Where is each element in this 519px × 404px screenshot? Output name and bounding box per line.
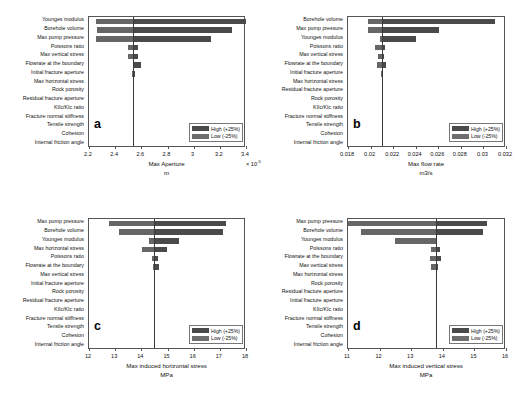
category-label: Borehole volume <box>260 228 343 233</box>
x-tick <box>443 348 444 351</box>
category-label: Max vertical stress <box>260 52 343 57</box>
x-tick <box>89 348 90 351</box>
legend-label-high: High (+25%) <box>211 126 240 132</box>
x-tick-label: 0.02 <box>364 151 375 157</box>
category-label: Rock porosity <box>260 281 343 286</box>
legend-swatch-low <box>192 336 209 341</box>
x-tick <box>438 146 439 149</box>
bar-low <box>361 229 436 235</box>
bar-high <box>382 36 416 42</box>
x-tick <box>141 146 142 149</box>
category-label: Poissons ratio <box>1 254 84 259</box>
category-label: Internal friction angle <box>260 140 343 145</box>
legend-item-low: Low (-25%) <box>192 133 240 139</box>
x-tick-label: 17 <box>216 353 222 359</box>
bar-high <box>133 19 246 25</box>
category-label: Poissons ratio <box>1 44 84 49</box>
x-tick <box>506 146 507 149</box>
x-tick <box>483 146 484 149</box>
x-tick-label: 3 <box>191 151 194 157</box>
bar-high <box>436 221 487 227</box>
bar-low <box>375 45 382 51</box>
figure-panel-grid: Younges modulusBorehole volumeMax pump p… <box>0 0 519 404</box>
x-tick-label: 16 <box>502 353 508 359</box>
category-label: Younges modulus <box>1 237 84 242</box>
x-tick-label: 18 <box>242 353 248 359</box>
category-label: Borehole volume <box>1 228 84 233</box>
legend-label-high: High (+25%) <box>211 328 240 334</box>
bar-low <box>96 19 133 25</box>
bar-low <box>142 247 155 253</box>
category-label: Max horizontal stress <box>260 272 343 277</box>
category-label: KIIc/KIc ratio <box>1 307 84 312</box>
category-label: Fracture normal stiffness <box>1 316 84 321</box>
category-label: Flowrate at the boundary <box>1 61 84 66</box>
category-label: KIIc/KIc ratio <box>1 105 84 110</box>
x-tick <box>506 348 507 351</box>
category-label: Internal friction angle <box>1 342 84 347</box>
x-tick <box>115 146 116 149</box>
x-tick <box>220 146 221 149</box>
category-label: Younges modulus <box>260 237 343 242</box>
baseline-marker <box>382 17 383 146</box>
x-axis-unit: m3/s <box>347 169 505 176</box>
panel-letter-a: a <box>94 117 101 131</box>
panel-a: Younges modulusBorehole volumeMax pump p… <box>0 0 259 202</box>
category-label: Max vertical stress <box>260 263 343 268</box>
category-label: Max vertical stress <box>1 272 84 277</box>
x-tick <box>411 348 412 351</box>
x-tick-label: 12 <box>375 353 381 359</box>
x-tick <box>115 348 116 351</box>
category-label: Initial fracture aperture <box>260 70 343 75</box>
legend-swatch-high <box>192 126 209 131</box>
category-label: Cohesion <box>260 131 343 136</box>
x-tick-label: 2.6 <box>136 151 144 157</box>
x-tick <box>220 348 221 351</box>
x-tick-label: 3.4 <box>241 151 249 157</box>
category-label: Rock porosity <box>260 96 343 101</box>
x-tick <box>371 146 372 149</box>
x-tick-label: 2.4 <box>110 151 118 157</box>
x-tick-label: 11 <box>344 353 350 359</box>
x-tick <box>348 146 349 149</box>
x-tick-label: 3.2 <box>215 151 223 157</box>
category-label: Initial fracture aperture <box>1 281 84 286</box>
x-tick-label: 2.8 <box>163 151 171 157</box>
baseline-marker <box>436 219 437 348</box>
x-tick <box>194 348 195 351</box>
x-tick-label: 0.032 <box>498 151 512 157</box>
legend-swatch-high <box>452 328 469 333</box>
category-label: KIIc/KIc ratio <box>260 307 343 312</box>
x-tick-label: 15 <box>470 353 476 359</box>
category-labels-b: Borehole volumeMax pump pressureYounges … <box>259 0 343 202</box>
bar-low <box>368 19 382 25</box>
legend-b: High (+25%)Low (-25%) <box>449 123 503 142</box>
bar-high <box>382 19 495 25</box>
x-tick-label: 13 <box>407 353 413 359</box>
bar-high <box>133 36 210 42</box>
x-tick-label: 0.026 <box>430 151 444 157</box>
x-tick-label: 0.022 <box>385 151 399 157</box>
x-tick-label: 0.028 <box>453 151 467 157</box>
x-tick-label: 14 <box>439 353 445 359</box>
bar-low <box>368 27 382 33</box>
category-label: Max horizontal stress <box>1 246 84 251</box>
category-label: Poissons ratio <box>260 44 343 49</box>
category-label: Max pump pressure <box>1 35 84 40</box>
panel-d: Max pump pressureBorehole volumeYounges … <box>259 202 519 404</box>
x-tick <box>168 348 169 351</box>
legend-item-low: Low (-25%) <box>192 335 240 341</box>
x-tick-label: 0.03 <box>477 151 488 157</box>
category-label: Flowrate at the boundary <box>260 61 343 66</box>
category-label: Initial fracture aperture <box>1 70 84 75</box>
bar-high <box>436 229 483 235</box>
category-label: Max horizontal stress <box>260 79 343 84</box>
category-label: Cohesion <box>1 131 84 136</box>
bar-high <box>154 247 167 253</box>
x-axis-title: Max Aperture <box>88 160 245 167</box>
panel-b: Borehole volumeMax pump pressureYounges … <box>259 0 519 202</box>
category-label: Tensile strength <box>1 122 84 127</box>
legend-swatch-low <box>452 134 469 139</box>
legend-item-low: Low (-25%) <box>452 335 500 341</box>
x-axis-unit: MPa <box>347 371 505 378</box>
